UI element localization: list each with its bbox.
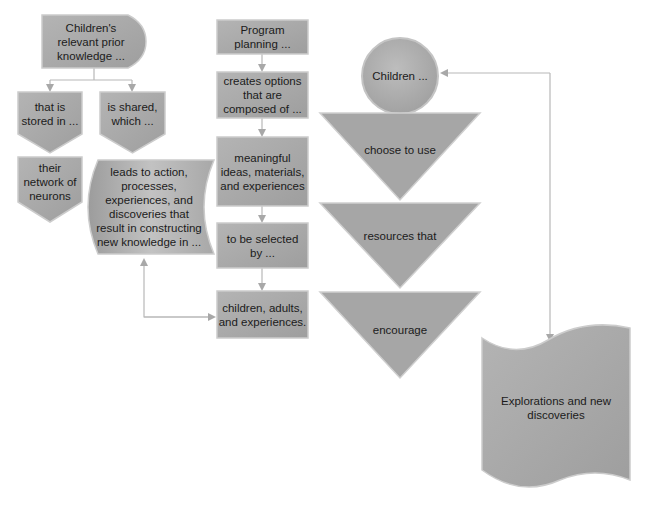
label-children: Children ... [362,66,438,86]
label-leads-to-action: leads to action, processes, experiences,… [88,160,210,254]
label-prior-knowledge: Children's relevant prior knowledge ... [42,15,140,68]
label-resources-that: resources that [340,226,460,246]
label-program-planning: Program planning ... [217,20,308,54]
label-to-be-selected: to be selected by ... [217,223,308,268]
label-network-of-neurons: their network of neurons [18,160,82,204]
label-stored-in: that is stored in ... [18,96,82,132]
connector-start-split [50,68,132,80]
label-encourage: encourage [340,320,460,340]
label-explorations: Explorations and new discoveries [484,390,628,426]
loop-connector-left [144,260,214,317]
label-is-shared: is shared, which ... [100,96,165,132]
label-children-adults: children, adults, and experiences. [217,291,308,338]
label-meaningful: meaningful ideas, materials, and experie… [217,137,308,206]
label-choose-to-use: choose to use [340,140,460,160]
label-creates-options: creates options that are composed of ... [217,72,308,118]
